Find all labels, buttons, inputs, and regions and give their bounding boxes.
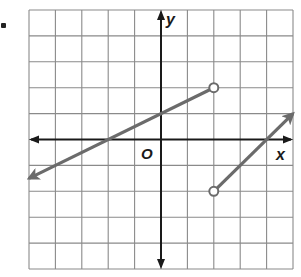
open-circle-endpoint	[209, 187, 218, 196]
function-line	[29, 88, 214, 179]
axes	[31, 12, 291, 267]
coordinate-graph: x y O	[0, 0, 301, 277]
open-circle-endpoint	[209, 83, 218, 92]
x-axis-label: x	[275, 146, 286, 163]
function-piece-1	[29, 83, 218, 178]
origin-label: O	[141, 145, 153, 162]
y-axis-label: y	[165, 11, 176, 28]
